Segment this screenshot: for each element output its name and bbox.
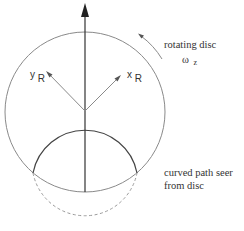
x-r-label: x R xyxy=(127,69,142,84)
y-axis-subscript: R xyxy=(38,73,45,84)
x-axis-subscript: R xyxy=(135,73,142,84)
vertical-arrowhead-icon xyxy=(81,3,89,17)
omega-subscript: z xyxy=(194,58,198,67)
rotation-direction-arc xyxy=(141,36,162,59)
omega-z-label: ω z xyxy=(182,54,198,67)
y-r-axis-line xyxy=(49,74,85,111)
rotating-disc-diagram: rotating disc ω z y R x R curved path se… xyxy=(0,0,244,231)
x-axis-letter: x xyxy=(127,69,132,80)
curved-path-label-line2: from disc xyxy=(164,180,204,191)
rotating-disc-label: rotating disc xyxy=(164,39,217,50)
y-r-label: y R xyxy=(30,69,45,84)
curved-path-label-line1: curved path seer xyxy=(164,167,233,178)
omega-symbol: ω xyxy=(182,54,189,65)
x-r-axis-line xyxy=(85,78,118,111)
y-axis-letter: y xyxy=(30,69,35,80)
